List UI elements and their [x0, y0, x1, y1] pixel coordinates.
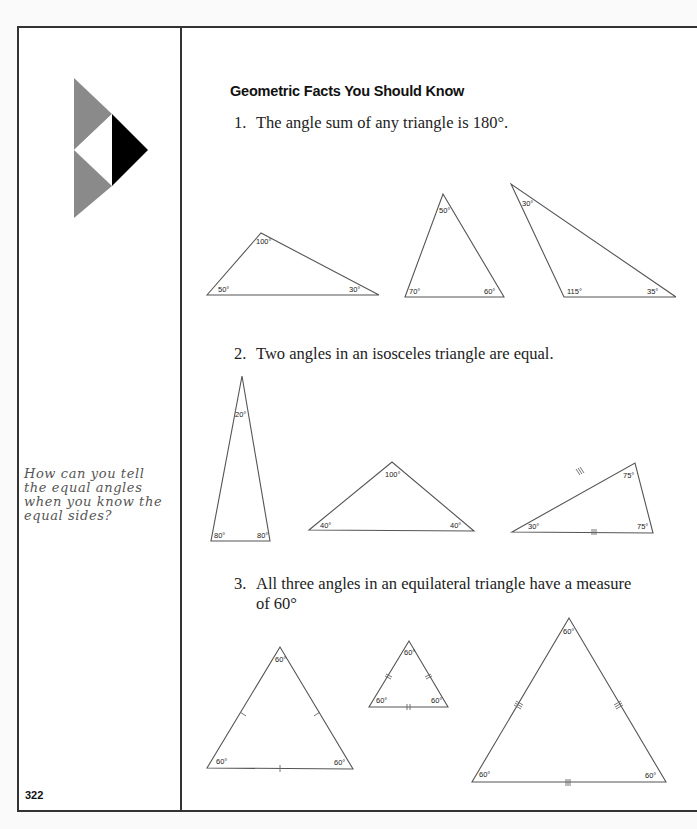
fact-number: 2. [234, 344, 256, 364]
fact-number: 3. [234, 574, 256, 594]
page-number: 322 [25, 789, 43, 801]
fact-2: 2.Two angles in an isosceles triangle ar… [234, 344, 554, 364]
margin-divider [180, 26, 182, 812]
fact-text: Two angles in an isosceles triangle are … [256, 344, 554, 363]
fact-number: 1. [234, 113, 256, 133]
page-title: Geometric Facts You Should Know [230, 83, 464, 99]
fact-text: All three angles in an equilateral trian… [256, 574, 631, 593]
fact-3: 3.All three angles in an equilateral tri… [234, 574, 674, 614]
margin-note: How can you tell the equal angles when y… [24, 467, 169, 523]
fact-text-continued: of 60° [234, 594, 674, 614]
triangle-logo-icon [74, 78, 150, 218]
fact-1: 1.The angle sum of any triangle is 180°. [234, 113, 508, 133]
fact-text: The angle sum of any triangle is 180°. [256, 113, 508, 132]
